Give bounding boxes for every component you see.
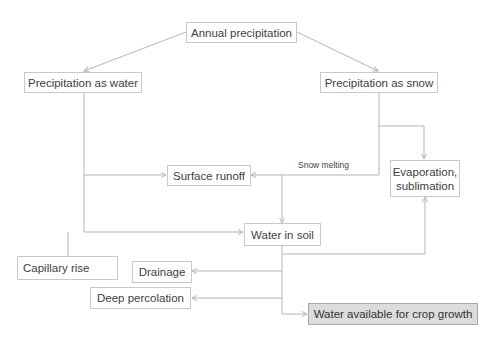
node-drainage-label: Drainage: [139, 265, 186, 279]
node-surface-runoff-label: Surface runoff: [173, 169, 245, 183]
node-evaporation-label-line2: sublimation: [396, 179, 454, 193]
node-evaporation-label-line1: Evaporation,: [393, 165, 458, 179]
node-precipitation-as-snow: Precipitation as snow: [320, 72, 438, 93]
node-water-in-soil: Water in soil: [244, 223, 321, 246]
node-precipitation-as-snow-label: Precipitation as snow: [325, 76, 434, 90]
node-drainage: Drainage: [132, 261, 192, 283]
node-deep-percolation: Deep percolation: [90, 287, 191, 309]
node-surface-runoff: Surface runoff: [167, 165, 251, 186]
node-water-available-for-crop-growth: Water available for crop growth: [308, 303, 478, 325]
edge-label-snow-melting: Snow melting: [298, 160, 349, 170]
node-precipitation-as-water-label: Precipitation as water: [28, 76, 138, 90]
node-evaporation-sublimation: Evaporation, sublimation: [390, 160, 460, 197]
node-precipitation-as-water: Precipitation as water: [24, 72, 142, 93]
node-water-in-soil-label: Water in soil: [251, 228, 314, 242]
node-deep-percolation-label: Deep percolation: [97, 291, 184, 305]
node-annual-precipitation-label: Annual precipitation: [191, 26, 292, 40]
node-water-available-label: Water available for crop growth: [314, 307, 473, 321]
node-capillary-rise: Capillary rise: [17, 256, 118, 280]
node-annual-precipitation: Annual precipitation: [186, 22, 297, 43]
node-capillary-rise-label: Capillary rise: [23, 261, 89, 275]
